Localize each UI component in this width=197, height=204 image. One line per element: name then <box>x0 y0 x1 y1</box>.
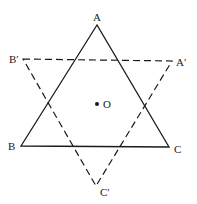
triangle-a-prime-b-prime-c-prime <box>23 59 172 186</box>
label-b-prime: B′ <box>9 53 19 65</box>
label-a-prime: A′ <box>176 56 186 68</box>
label-a: A <box>93 11 101 23</box>
label-c-prime: C′ <box>100 186 110 198</box>
label-c: C <box>174 143 181 155</box>
label-b: B <box>8 140 15 152</box>
triangle-abc <box>21 25 169 147</box>
label-o: O <box>103 98 111 110</box>
center-point-o <box>95 102 99 106</box>
hexagram-diagram: A B C A′ B′ C′ O <box>0 0 197 204</box>
